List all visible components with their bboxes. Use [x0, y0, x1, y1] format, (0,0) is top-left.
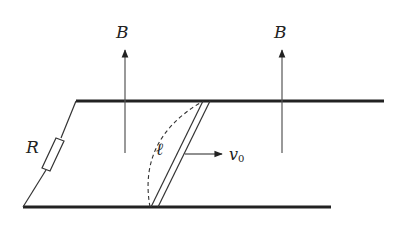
- rail-diagram: B B R ℓ v0: [0, 0, 405, 226]
- left-wire-upper: [61, 101, 76, 138]
- velocity-symbol: v: [229, 145, 238, 164]
- label-field-right: B: [273, 22, 287, 42]
- left-wire-lower: [23, 170, 46, 207]
- label-field-left: B: [115, 22, 129, 42]
- resistor-icon: [42, 138, 64, 171]
- label-velocity: v0: [229, 145, 244, 164]
- velocity-subscript: 0: [238, 153, 244, 164]
- label-resistor: R: [25, 137, 39, 157]
- label-rod-length: ℓ: [156, 139, 163, 159]
